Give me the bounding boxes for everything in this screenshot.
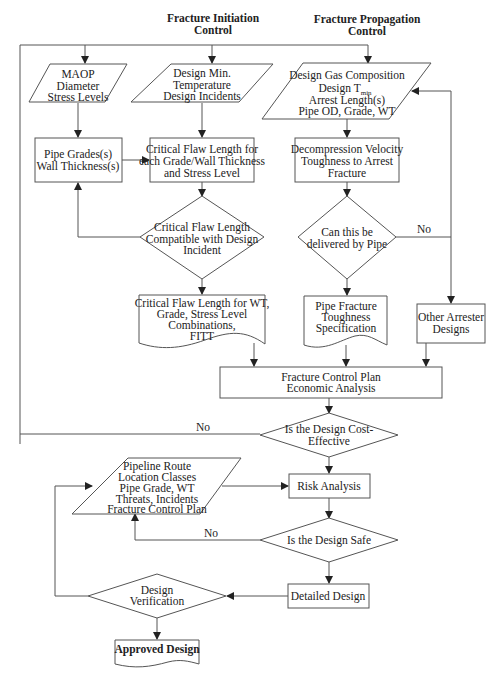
node-design-gas-composition: Design Gas Composition Design Tmin Arres… xyxy=(262,63,431,119)
node-pipeline-route: Pipeline Route Location Classes Pipe Gra… xyxy=(72,458,241,515)
node-maop: MAOP Diameter Stress Levels xyxy=(29,64,127,103)
node-other-arrester-designs: Other Arrester Designs xyxy=(417,304,485,343)
edge-label-no-delivered: No xyxy=(417,223,431,235)
svg-text:Fracture Initiation: Fracture Initiation xyxy=(167,12,260,24)
node-fracture-control-plan: Fracture Control Plan Economic Analysis xyxy=(220,367,442,398)
decision-cost-effective: Is the Design Cost- Effective xyxy=(260,413,398,457)
node-design-min-temperature: Design Min. Temperature Design Incidents xyxy=(131,64,273,103)
svg-text:Design Incidents: Design Incidents xyxy=(163,90,241,103)
svg-text:Design Gas Composition: Design Gas Composition xyxy=(289,69,405,82)
edge-label-no-cost: No xyxy=(196,421,210,433)
svg-text:MAOP: MAOP xyxy=(61,68,94,80)
svg-text:Designs: Designs xyxy=(432,323,470,336)
svg-text:FITT: FITT xyxy=(190,330,214,342)
svg-text:Verification: Verification xyxy=(130,595,185,607)
node-approved-design: Approved Design xyxy=(114,640,200,667)
node-pipe-grades: Pipe Grades(s) Wall Thickness(s) xyxy=(35,138,122,182)
svg-text:Detailed Design: Detailed Design xyxy=(291,590,366,603)
node-critical-flaw-length: Critical Flaw Length for each Grade/Wall… xyxy=(139,138,265,182)
svg-text:Effective: Effective xyxy=(308,435,350,447)
svg-text:Approved Design: Approved Design xyxy=(114,643,200,656)
svg-text:and Stress Level: and Stress Level xyxy=(164,167,240,179)
header-fracture-initiation: Fracture Initiation Control xyxy=(167,12,260,36)
svg-text:Wall Thickness(s): Wall Thickness(s) xyxy=(37,160,120,173)
node-critical-flaw-combinations: Critical Flaw Length for WT, Grade, Stre… xyxy=(135,295,270,348)
svg-text:Risk Analysis: Risk Analysis xyxy=(297,480,361,493)
svg-text:Pipe OD, Grade, WT: Pipe OD, Grade, WT xyxy=(298,105,395,118)
decision-critical-flaw-compatible: Critical Flaw Length Compatible with Des… xyxy=(140,196,264,279)
node-decompression-velocity: Decompression Velocity Toughness to Arre… xyxy=(291,138,404,182)
svg-text:Is the Design Safe: Is the Design Safe xyxy=(287,534,371,547)
svg-text:Control: Control xyxy=(348,25,386,37)
header-fracture-propagation: Fracture Propagation Control xyxy=(314,13,421,37)
svg-text:each Grade/Wall Thickness: each Grade/Wall Thickness xyxy=(139,155,265,167)
svg-text:Stress Levels: Stress Levels xyxy=(47,91,109,103)
svg-text:Control: Control xyxy=(194,24,232,36)
svg-text:Fracture Control Plan: Fracture Control Plan xyxy=(107,503,207,515)
svg-text:Specification: Specification xyxy=(316,322,377,335)
svg-text:Incident: Incident xyxy=(183,244,221,256)
svg-text:Other Arrester: Other Arrester xyxy=(418,311,484,323)
svg-text:delivered by Pipe: delivered by Pipe xyxy=(307,238,387,251)
flowchart: Fracture Initiation Control Fracture Pro… xyxy=(0,0,504,686)
node-detailed-design: Detailed Design xyxy=(288,584,369,608)
node-risk-analysis: Risk Analysis xyxy=(289,474,370,498)
decision-design-verification: Design Verification xyxy=(88,574,226,618)
edge-label-no-safe: No xyxy=(204,527,218,539)
svg-text:Economic Analysis: Economic Analysis xyxy=(286,382,376,395)
decision-design-safe: Is the Design Safe xyxy=(260,518,398,562)
svg-text:Can this be: Can this be xyxy=(321,226,373,238)
svg-text:Fracture: Fracture xyxy=(328,167,366,179)
node-pipe-fracture-toughness: Pipe Fracture Toughness Specification xyxy=(304,296,387,347)
decision-can-be-delivered: Can this be delivered by Pipe xyxy=(298,196,396,279)
